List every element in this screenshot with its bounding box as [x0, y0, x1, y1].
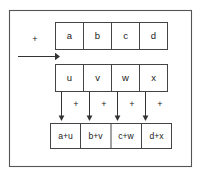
- result-cell-1: b+v: [88, 131, 103, 141]
- middle-cell-3: x: [151, 72, 156, 83]
- column-operator-0: +: [73, 99, 78, 109]
- diagram-canvas: + a b c d u v w x: [0, 0, 201, 176]
- result-cell-0: a+u: [58, 131, 73, 141]
- middle-cell-1: v: [95, 72, 100, 83]
- left-operator-plus: +: [32, 34, 37, 44]
- top-cell-1: b: [95, 30, 100, 41]
- column-operator-3: +: [157, 99, 162, 109]
- column-connector-0: [59, 92, 65, 122]
- column-arrow-head-3: [143, 116, 149, 122]
- incoming-arrow: [18, 53, 60, 60]
- top-cell-3: d: [151, 30, 156, 41]
- bottom-operand-row: u v w x: [56, 65, 168, 92]
- top-cell-2: c: [123, 30, 128, 41]
- top-cell-0: a: [67, 30, 73, 41]
- column-operator-2: +: [129, 99, 134, 109]
- column-arrow-head-2: [115, 116, 121, 122]
- column-arrow-head-1: [87, 116, 93, 122]
- column-connector-2: [115, 92, 121, 122]
- top-operand-row: a b c d: [56, 23, 168, 50]
- vector-addition-diagram: + a b c d u v w x: [0, 0, 201, 176]
- middle-cell-2: w: [121, 72, 129, 83]
- column-arrow-head-0: [59, 116, 65, 122]
- column-connector-3: [143, 92, 149, 122]
- column-connector-1: [87, 92, 93, 122]
- incoming-arrow-head: [55, 53, 60, 60]
- result-cell-3: d+x: [149, 131, 164, 141]
- result-row: a+u b+v c+w d+x: [51, 124, 172, 149]
- middle-cell-0: u: [67, 72, 72, 83]
- result-cell-2: c+w: [118, 131, 134, 141]
- column-operator-1: +: [101, 99, 106, 109]
